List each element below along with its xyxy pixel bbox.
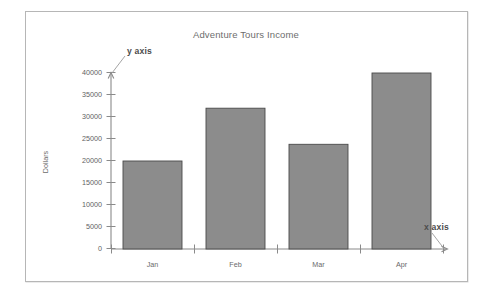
x-axis-callout-leader-line <box>432 233 445 250</box>
x-axis-category-labels: Jan Feb Mar Apr <box>147 260 408 269</box>
bar-jan[interactable] <box>123 161 182 249</box>
screenshot-page: Adventure Tours Income 4000 <box>0 0 492 297</box>
bar-series <box>123 73 431 249</box>
figure-frame: Adventure Tours Income 4000 <box>25 11 468 282</box>
y-axis-title: Dollars <box>41 150 50 173</box>
x-category-label: Feb <box>229 260 241 269</box>
y-tick-label: 40000 <box>82 68 102 77</box>
bar-chart: Adventure Tours Income 4000 <box>26 12 467 281</box>
bar-apr[interactable] <box>372 73 431 249</box>
chart-title: Adventure Tours Income <box>193 29 299 40</box>
x-category-label: Mar <box>312 260 325 269</box>
y-axis-callout-leader-line <box>112 56 125 73</box>
y-tick-label: 10000 <box>82 200 102 209</box>
bar-feb[interactable] <box>206 108 265 249</box>
bar-mar[interactable] <box>289 144 348 249</box>
y-axis-callout: y axis <box>112 46 152 73</box>
y-tick-label: 25000 <box>82 134 102 143</box>
x-category-label: Apr <box>396 260 408 269</box>
y-tick-label: 35000 <box>82 90 102 99</box>
y-axis-tick-labels: 40000 35000 30000 25000 20000 15000 1000… <box>82 68 102 253</box>
x-axis-callout-label: x axis <box>424 222 449 232</box>
y-axis-callout-label: y axis <box>127 46 152 56</box>
y-tick-label: 0 <box>98 244 102 253</box>
y-tick-label: 30000 <box>82 112 102 121</box>
y-tick-label: 20000 <box>82 156 102 165</box>
y-tick-label: 5000 <box>86 222 102 231</box>
y-tick-label: 15000 <box>82 178 102 187</box>
x-category-label: Jan <box>147 260 159 269</box>
